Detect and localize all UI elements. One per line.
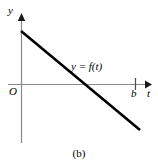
function-line	[21, 31, 140, 130]
function-equation-label: y = f(t)	[71, 61, 102, 72]
figure-container: y O b t y = f(t) (b)	[0, 0, 158, 166]
t-axis-label: t	[147, 88, 150, 99]
graph-canvas	[0, 0, 158, 166]
y-axis-label: y	[8, 5, 13, 16]
y-axis-arrowhead	[18, 13, 25, 21]
b-tick-label: b	[131, 88, 137, 99]
origin-label: O	[9, 86, 17, 97]
figure-caption: (b)	[0, 148, 158, 159]
